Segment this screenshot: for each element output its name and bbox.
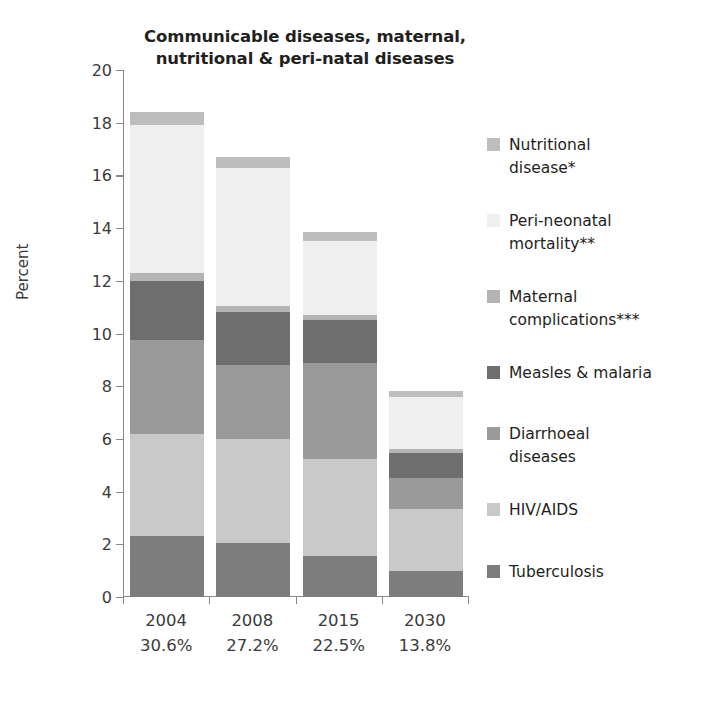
y-tick <box>116 492 123 493</box>
y-tick-label: 0 <box>102 588 112 607</box>
bar-segment[interactable] <box>130 434 204 537</box>
bar-segment[interactable] <box>389 478 463 508</box>
legend-label: Measles & malaria <box>509 362 652 385</box>
bar-segment[interactable] <box>130 125 204 273</box>
legend-item-3[interactable]: Measles & malaria <box>487 362 652 385</box>
bar-segment[interactable] <box>130 112 204 125</box>
y-tick-label: 18 <box>92 113 112 132</box>
bar-2015[interactable] <box>303 232 377 597</box>
legend-item-1[interactable]: Peri-neonatal mortality** <box>487 210 612 256</box>
bar-segment[interactable] <box>130 273 204 281</box>
bar-segment[interactable] <box>303 320 377 362</box>
chart-root: Communicable diseases, maternal, nutriti… <box>0 0 705 711</box>
bar-segment[interactable] <box>216 439 290 543</box>
y-axis-line <box>123 70 124 597</box>
bar-segment[interactable] <box>216 312 290 365</box>
legend-label: Diarrhoeal diseases <box>509 423 590 469</box>
y-tick <box>116 70 123 71</box>
bar-segment[interactable] <box>389 397 463 450</box>
y-tick-label: 4 <box>102 482 112 501</box>
y-tick-label: 16 <box>92 166 112 185</box>
bar-2004[interactable] <box>130 112 204 597</box>
bar-2030[interactable] <box>389 391 463 597</box>
bar-segment[interactable] <box>216 157 290 168</box>
y-axis-title: Percent <box>14 244 32 300</box>
y-tick <box>116 544 123 545</box>
legend-swatch-icon <box>487 214 500 227</box>
bar-segment[interactable] <box>389 571 463 597</box>
y-tick-label: 2 <box>102 535 112 554</box>
legend-item-5[interactable]: HIV/AIDS <box>487 499 578 522</box>
y-tick-label: 8 <box>102 377 112 396</box>
x-category-percent: 13.8% <box>370 633 480 658</box>
legend-item-6[interactable]: Tuberculosis <box>487 561 604 584</box>
y-tick-label: 6 <box>102 429 112 448</box>
y-tick <box>116 175 123 176</box>
legend-swatch-icon <box>487 565 500 578</box>
legend-label: HIV/AIDS <box>509 499 578 522</box>
bar-segment[interactable] <box>216 168 290 306</box>
x-category-2030: 203013.8% <box>370 608 480 658</box>
legend-swatch-icon <box>487 503 500 516</box>
bar-segment[interactable] <box>389 449 463 453</box>
legend-item-0[interactable]: Nutritional disease* <box>487 134 591 180</box>
bar-segment[interactable] <box>389 391 463 396</box>
bar-segment[interactable] <box>303 459 377 556</box>
bar-segment[interactable] <box>130 281 204 340</box>
legend-item-2[interactable]: Maternal complications*** <box>487 286 640 332</box>
bar-segment[interactable] <box>303 556 377 597</box>
bar-2008[interactable] <box>216 157 290 597</box>
bar-segment[interactable] <box>303 363 377 459</box>
bar-segment[interactable] <box>389 453 463 478</box>
legend-label: Peri-neonatal mortality** <box>509 210 612 256</box>
x-tick <box>123 596 124 604</box>
x-tick <box>468 596 469 604</box>
bar-segment[interactable] <box>303 232 377 241</box>
legend-swatch-icon <box>487 427 500 440</box>
x-tick <box>296 596 297 604</box>
legend-label: Nutritional disease* <box>509 134 591 180</box>
y-tick-label: 10 <box>92 324 112 343</box>
bar-segment[interactable] <box>130 536 204 597</box>
legend-label: Tuberculosis <box>509 561 604 584</box>
bar-segment[interactable] <box>216 306 290 313</box>
legend-label: Maternal complications*** <box>509 286 640 332</box>
bar-segment[interactable] <box>303 241 377 315</box>
y-tick-label: 12 <box>92 271 112 290</box>
legend-swatch-icon <box>487 366 500 379</box>
legend-swatch-icon <box>487 290 500 303</box>
x-category-year: 2030 <box>370 608 480 633</box>
bar-segment[interactable] <box>216 543 290 597</box>
legend-swatch-icon <box>487 138 500 151</box>
y-tick <box>116 334 123 335</box>
y-tick <box>116 597 123 598</box>
bar-segment[interactable] <box>216 365 290 439</box>
y-tick-label: 14 <box>92 219 112 238</box>
legend-item-4[interactable]: Diarrhoeal diseases <box>487 423 590 469</box>
x-tick <box>209 596 210 604</box>
bar-segment[interactable] <box>389 509 463 571</box>
y-tick-label: 20 <box>92 61 112 80</box>
bar-segment[interactable] <box>130 340 204 434</box>
y-tick <box>116 228 123 229</box>
chart-title: Communicable diseases, maternal, nutriti… <box>120 26 490 70</box>
y-tick <box>116 439 123 440</box>
x-tick <box>382 596 383 604</box>
bar-segment[interactable] <box>303 315 377 320</box>
y-tick <box>116 281 123 282</box>
y-tick <box>116 386 123 387</box>
plot-area: 02468101214161820 <box>123 70 468 597</box>
y-tick <box>116 123 123 124</box>
